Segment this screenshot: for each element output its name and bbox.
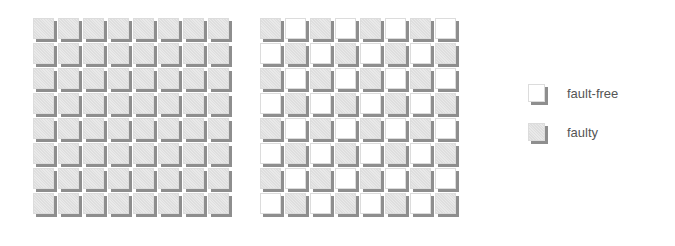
cell-faulty (435, 143, 456, 164)
legend-item-faulty: faulty (528, 121, 618, 143)
cell-faulty (183, 18, 204, 39)
cell-faulty (83, 118, 104, 139)
cell-faulty (360, 68, 381, 89)
cell-faulty (183, 118, 204, 139)
grid-all-faulty (33, 18, 229, 214)
cell-fault-free (410, 93, 431, 114)
cell-fault-free (310, 193, 331, 214)
cell-faulty (183, 68, 204, 89)
cell-fault-free (360, 143, 381, 164)
cell-fault-free (435, 168, 456, 189)
cell-fault-free (310, 143, 331, 164)
cell-faulty (33, 18, 54, 39)
cell-faulty (385, 93, 406, 114)
cell-faulty (108, 193, 129, 214)
cell-faulty (83, 168, 104, 189)
cell-faulty (158, 18, 179, 39)
cell-faulty (108, 68, 129, 89)
cell-faulty (260, 68, 281, 89)
cell-faulty (133, 193, 154, 214)
cell-faulty (435, 93, 456, 114)
cell-faulty (133, 18, 154, 39)
cell-faulty (183, 43, 204, 64)
cell-faulty (208, 18, 229, 39)
cell-fault-free (260, 193, 281, 214)
cell-faulty (435, 193, 456, 214)
fault-free-swatch-icon (528, 84, 545, 102)
cell-faulty (58, 143, 79, 164)
cell-faulty (410, 68, 431, 89)
cell-fault-free (385, 118, 406, 139)
cell-faulty (33, 43, 54, 64)
cell-faulty (285, 93, 306, 114)
cell-fault-free (285, 118, 306, 139)
cell-faulty (208, 93, 229, 114)
cell-faulty (208, 68, 229, 89)
cell-fault-free (360, 43, 381, 64)
cell-faulty (58, 168, 79, 189)
cell-faulty (310, 118, 331, 139)
cell-faulty (360, 18, 381, 39)
cell-faulty (58, 193, 79, 214)
cell-fault-free (360, 93, 381, 114)
cell-faulty (410, 168, 431, 189)
cell-faulty (335, 143, 356, 164)
cell-faulty (58, 93, 79, 114)
cell-faulty (208, 43, 229, 64)
cell-fault-free (335, 168, 356, 189)
cell-faulty (133, 118, 154, 139)
cell-faulty (310, 168, 331, 189)
cell-faulty (410, 118, 431, 139)
cell-faulty (385, 193, 406, 214)
cell-fault-free (385, 68, 406, 89)
cell-fault-free (285, 18, 306, 39)
cell-fault-free (410, 43, 431, 64)
cell-faulty (158, 168, 179, 189)
cell-faulty (108, 118, 129, 139)
cell-faulty (133, 93, 154, 114)
cell-fault-free (410, 143, 431, 164)
cell-faulty (83, 68, 104, 89)
cell-faulty (158, 43, 179, 64)
cell-faulty (285, 143, 306, 164)
cell-faulty (285, 193, 306, 214)
cell-faulty (285, 43, 306, 64)
grid-checkerboard (260, 18, 456, 214)
cell-faulty (58, 118, 79, 139)
cell-fault-free (410, 193, 431, 214)
cell-faulty (108, 143, 129, 164)
cell-faulty (158, 118, 179, 139)
cell-faulty (83, 43, 104, 64)
cell-faulty (108, 168, 129, 189)
cell-faulty (33, 143, 54, 164)
cell-fault-free (260, 93, 281, 114)
cell-fault-free (310, 93, 331, 114)
cell-faulty (133, 168, 154, 189)
cell-faulty (58, 43, 79, 64)
cell-faulty (108, 18, 129, 39)
legend: fault-free faulty (528, 82, 618, 160)
cell-fault-free (335, 68, 356, 89)
cell-fault-free (435, 118, 456, 139)
cell-faulty (208, 143, 229, 164)
cell-faulty (133, 143, 154, 164)
cell-faulty (158, 68, 179, 89)
cell-faulty (83, 18, 104, 39)
cell-faulty (410, 18, 431, 39)
cell-faulty (335, 43, 356, 64)
cell-faulty (158, 143, 179, 164)
cell-faulty (183, 143, 204, 164)
cell-faulty (83, 143, 104, 164)
cell-faulty (33, 93, 54, 114)
cell-fault-free (435, 68, 456, 89)
cell-faulty (108, 93, 129, 114)
cell-faulty (360, 118, 381, 139)
cell-faulty (335, 193, 356, 214)
cell-faulty (208, 193, 229, 214)
cell-faulty (335, 93, 356, 114)
cell-faulty (310, 18, 331, 39)
cell-faulty (58, 18, 79, 39)
cell-fault-free (360, 193, 381, 214)
cell-faulty (108, 43, 129, 64)
cell-faulty (33, 68, 54, 89)
